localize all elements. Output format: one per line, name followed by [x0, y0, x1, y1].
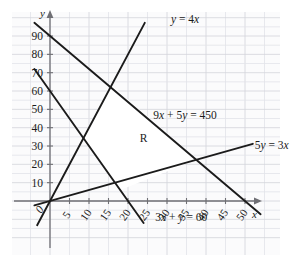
y-axis-label: y [39, 7, 45, 19]
y-tick-label: 30 [32, 140, 44, 152]
coordinate-graph-svg: 5101520253035404550 102030405060708090 0… [0, 0, 293, 267]
y-tick-labels: 102030405060708090 [32, 30, 44, 189]
line-equation-label: 5y = 3x [255, 139, 290, 152]
y-tick-label: 10 [32, 177, 44, 189]
region-label-r: R [140, 132, 148, 144]
y-tick-label: 90 [32, 30, 44, 42]
graph-figure: 5101520253035404550 102030405060708090 0… [0, 0, 293, 267]
line-equation-label: 3x + y = 60 [155, 211, 207, 224]
y-tick-label: 80 [32, 48, 44, 60]
line-equation-label: 9x + 5y = 450 [153, 109, 217, 122]
y-tick-label: 60 [32, 85, 44, 97]
y-tick-label: 40 [32, 122, 44, 134]
line-equation-label: y = 4x [170, 13, 200, 26]
x-axis-label: x [251, 208, 257, 220]
y-tick-label: 50 [32, 103, 44, 115]
y-tick-label: 20 [32, 158, 44, 170]
